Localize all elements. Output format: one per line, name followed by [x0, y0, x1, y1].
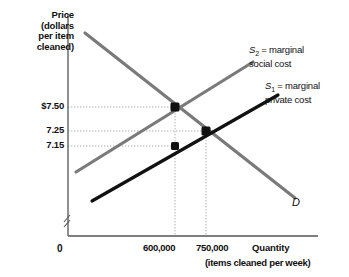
curve-label-s2-line2: social cost: [249, 58, 291, 69]
x-tick-label-750000: 750,000: [196, 243, 228, 254]
x-tick-label-600000: 600,000: [143, 243, 175, 254]
origin-label: 0: [57, 243, 63, 254]
curve-label-s1-line2: private cost: [265, 94, 311, 105]
y-axis-title: Price (dollars per item cleaned): [2, 10, 74, 53]
y-axis-title-text: Price (dollars per item cleaned): [37, 9, 74, 52]
s2-marginal-social-cost-curve: [76, 62, 253, 172]
curve-label-s2: S2 = marginalsocial cost: [249, 44, 304, 69]
point-private-cost-at-optimum: [171, 142, 179, 150]
guide-lines: [68, 107, 206, 236]
curve-label-d: D: [292, 196, 300, 208]
y-tick-label-715: 7.15: [14, 140, 64, 151]
curve-label-s2-rest: = marginal: [259, 44, 304, 55]
x-axis-subtitle: (items cleaned per week): [205, 258, 310, 269]
y-axis-break-icon: [64, 215, 70, 227]
chart-figure: Price (dollars per item cleaned) $7.50 7…: [0, 0, 349, 277]
curve-label-s1-rest: = marginal: [275, 80, 320, 91]
point-market-equilibrium: [202, 127, 211, 136]
point-social-optimum: [171, 103, 180, 112]
x-axis-title: Quantity: [252, 243, 289, 254]
y-tick-label-750: $7.50: [14, 101, 64, 112]
curve-label-s1: S1 = marginalprivate cost: [265, 80, 320, 105]
y-tick-label-725: 7.25: [14, 125, 64, 136]
